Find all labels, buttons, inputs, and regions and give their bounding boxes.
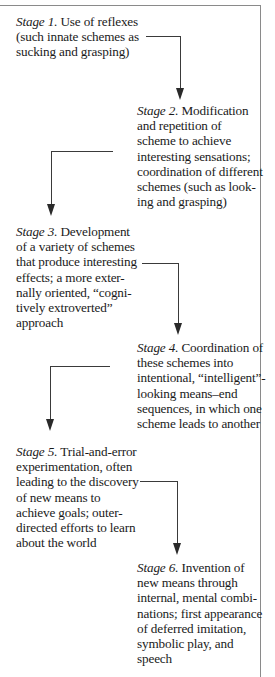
stage-1-text: Use of reflexes: [60, 14, 138, 29]
stage-3-text: approach: [16, 315, 137, 330]
stage-3-box: Stage 3. Development of a variety of sch…: [16, 224, 137, 330]
connector-line: [51, 151, 113, 152]
stage-2-text: ing and grasping): [137, 194, 263, 209]
stage-5-text: of new means to: [16, 490, 139, 505]
stage-4-text: scheme leads to another: [137, 416, 266, 431]
stage-1-text: sucking and grasping): [16, 44, 139, 59]
stage-4-text: these schemes into: [137, 355, 266, 370]
stage-6-box: Stage 6. Invention of new means through …: [137, 560, 262, 666]
stage-6-text: nations; first appearance: [137, 606, 262, 621]
connector-line: [142, 263, 179, 264]
stage-6-label: Stage 6.: [137, 560, 178, 575]
stage-3-text: tively extroverted”: [16, 300, 137, 315]
connector-line: [177, 481, 178, 545]
stage-3-text: of a variety of schemes: [16, 239, 137, 254]
stage-6-text: symbolic play, and: [137, 636, 262, 651]
arrow-down-icon: [173, 543, 181, 555]
stage-2-text: Modification: [181, 103, 248, 118]
arrow-down-icon: [46, 419, 54, 431]
stage-2-text: interesting sensations;: [137, 149, 263, 164]
stage-5-text: leading to the discovery: [16, 474, 139, 489]
arrow-down-icon: [176, 88, 184, 100]
stage-6-text: of deferred imitation,: [137, 621, 262, 636]
stage-6-text: new means through: [137, 575, 262, 590]
connector-line: [51, 151, 52, 206]
stage-5-label: Stage 5.: [16, 444, 57, 459]
stage-3-text: nally oriented, “cogni-: [16, 285, 137, 300]
connector-line: [180, 36, 181, 91]
arrow-down-icon: [174, 323, 182, 335]
stage-3-text: Development: [60, 224, 129, 239]
stage-3-text: effects; a more exter-: [16, 270, 137, 285]
stage-4-box: Stage 4. Coordination of these schemes i…: [137, 340, 266, 431]
stage-5-box: Stage 5. Trial-and-error experimentation…: [16, 444, 139, 550]
arrow-down-icon: [47, 204, 55, 216]
connector-line: [140, 481, 178, 482]
connector-line: [146, 36, 181, 37]
stage-2-text: schemes (such as look-: [137, 179, 263, 194]
stage-3-label: Stage 3.: [16, 224, 57, 239]
stage-2-box: Stage 2. Modification and repetition of …: [137, 103, 263, 209]
stage-4-label: Stage 4.: [137, 340, 178, 355]
stage-5-text: Trial-and-error: [60, 444, 136, 459]
stage-1-text: (such innate schemes as: [16, 29, 139, 44]
stage-4-text: intentional, “intelligent”-: [137, 370, 266, 385]
stage-3-text: that produce interesting: [16, 254, 137, 269]
stage-2-text: and repetition of: [137, 118, 263, 133]
stage-6-text: internal, mental combi-: [137, 590, 262, 605]
connector-line: [50, 366, 51, 421]
stage-5-text: about the world: [16, 535, 139, 550]
stage-5-text: experimentation, often: [16, 459, 139, 474]
stage-2-label: Stage 2.: [137, 103, 178, 118]
stage-2-text: coordination of different: [137, 164, 263, 179]
connector-line: [50, 366, 110, 367]
stage-2-text: scheme to achieve: [137, 133, 263, 148]
stage-4-text: Coordination of: [181, 340, 263, 355]
stage-6-text: speech: [137, 651, 262, 666]
stage-6-text: Invention of: [181, 560, 244, 575]
stage-1-label: Stage 1.: [16, 14, 57, 29]
stage-5-text: achieve goals; outer-: [16, 505, 139, 520]
frame-top-border: [0, 5, 261, 6]
stage-4-text: looking means–end: [137, 386, 266, 401]
stage-1-box: Stage 1. Use of reflexes (such innate sc…: [16, 14, 139, 60]
stage-4-text: sequences, in which one: [137, 401, 266, 416]
connector-line: [178, 263, 179, 326]
stage-5-text: directed efforts to learn: [16, 520, 139, 535]
